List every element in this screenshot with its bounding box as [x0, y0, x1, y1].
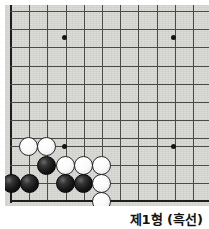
grid-line-horizontal-5 [10, 102, 209, 103]
white-stone[interactable] [92, 192, 111, 207]
grid-line-horizontal-4 [10, 84, 209, 85]
grid-line-vertical-6 [120, 0, 121, 202]
caption-bar: 제1형 (흑선) [0, 206, 209, 229]
star-point-bottom-right-icon [171, 144, 176, 149]
white-stone[interactable] [37, 137, 56, 156]
white-stone[interactable] [92, 156, 111, 175]
white-stone[interactable] [92, 174, 111, 193]
white-stone[interactable] [19, 137, 38, 156]
board-left-margin [0, 0, 5, 206]
grid-line-horizontal-6 [10, 120, 209, 121]
board-top-margin [0, 0, 209, 5]
grid-line-vertical-10 [193, 0, 194, 202]
black-stone[interactable] [37, 156, 56, 175]
grid-line-horizontal-0 [10, 11, 209, 12]
grid-line-vertical-1 [29, 0, 30, 202]
grid-line-vertical-7 [138, 0, 139, 202]
white-stone[interactable] [56, 156, 75, 175]
black-stone[interactable] [56, 174, 75, 193]
go-problem-figure: 제1형 (흑선) [0, 0, 209, 229]
grid-line-horizontal-2 [10, 47, 209, 48]
white-stone[interactable] [74, 156, 93, 175]
grid-line-horizontal-1 [10, 29, 209, 30]
star-point-top-right-icon [171, 35, 176, 40]
grid-line-vertical-9 [175, 0, 176, 202]
grid-line-horizontal-3 [10, 66, 209, 67]
grid-line-vertical-8 [157, 0, 158, 202]
go-board[interactable] [0, 0, 209, 206]
black-stone[interactable] [74, 174, 93, 193]
star-point-bottom-left-icon [62, 144, 67, 149]
star-point-top-left-icon [62, 35, 67, 40]
problem-caption: 제1형 (흑선) [130, 209, 203, 228]
black-stone[interactable] [20, 174, 39, 193]
